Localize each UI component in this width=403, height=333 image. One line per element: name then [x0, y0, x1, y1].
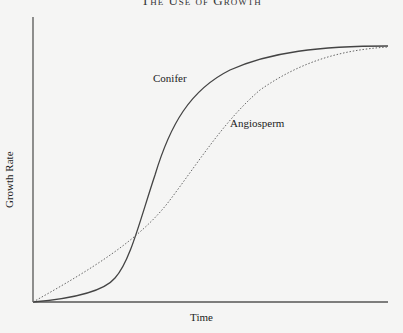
conifer-label: Conifer: [153, 72, 187, 84]
angiosperm-curve: [33, 47, 388, 302]
conifer-curve: [33, 46, 388, 302]
y-axis-label: Growth Rate: [3, 151, 15, 208]
x-axis-label: Time: [0, 311, 403, 323]
angiosperm-label: Angiosperm: [230, 117, 284, 129]
growth-chart: [0, 0, 403, 333]
